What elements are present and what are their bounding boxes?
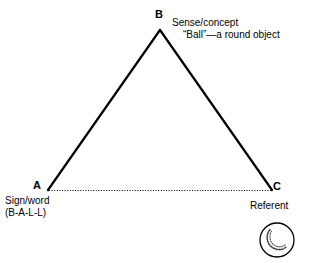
sense-annotation: Sense/concept “Ball”—a round object xyxy=(172,17,280,40)
referent-annotation-line-1: Referent xyxy=(250,200,288,212)
vertex-label-c: C xyxy=(273,181,281,192)
edge-b-to-c xyxy=(160,30,272,190)
edge-a-to-b xyxy=(48,30,160,190)
vertex-label-a: A xyxy=(33,180,41,191)
vertex-label-b: B xyxy=(155,9,163,20)
sign-annotation: Sign/word (B-A-L-L) xyxy=(5,195,49,218)
referent-annotation: Referent xyxy=(250,200,288,212)
sense-annotation-line-1: Sense/concept xyxy=(172,17,280,29)
sign-annotation-line-1: Sign/word xyxy=(5,195,49,207)
sense-annotation-line-2: “Ball”—a round object xyxy=(172,29,280,41)
sign-annotation-line-2: (B-A-L-L) xyxy=(5,207,49,219)
ball-icon xyxy=(258,221,296,259)
semiotic-triangle-figure: B A C Sense/concept “Ball”—a round objec… xyxy=(0,0,312,263)
